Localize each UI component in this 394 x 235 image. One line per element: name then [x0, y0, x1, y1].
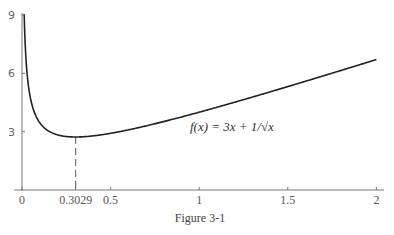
figure-caption: Figure 3-1 — [175, 211, 225, 225]
x-tick-label: 1.5 — [280, 193, 295, 207]
y-tick-label: 6 — [8, 67, 15, 80]
x-tick-label: 0.3029 — [59, 193, 92, 207]
y-tick-label: 3 — [8, 126, 15, 139]
x-tick-label: 1 — [196, 193, 202, 207]
x-tick-label: 0 — [19, 193, 25, 207]
x-tick-label: 2 — [373, 193, 379, 207]
y-tick-label: 9 — [8, 9, 15, 22]
x-tick-label: 0.5 — [103, 193, 118, 207]
formula-label: f(x) = 3x + 1/√x — [190, 119, 274, 134]
chart: 369 00.30290.511.52 f(x) = 3x + 1/√x Fig… — [0, 0, 394, 235]
